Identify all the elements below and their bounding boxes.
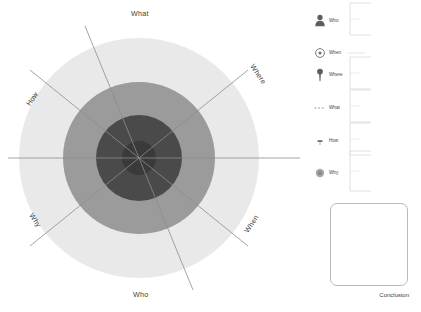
legend-item-where[interactable]: Where [300,62,421,88]
legend-bracket-who [347,2,373,40]
legend-label-when: When [329,51,341,56]
legend-label-why: Why [329,171,338,176]
legend-bracket-why [347,150,373,196]
bullseye-diagram: What Where When Who Why How [0,0,300,312]
small-mark-icon [314,134,326,148]
conclusion-block: Conclusion [330,203,410,308]
spoke-label-who: Who [133,291,148,298]
conclusion-box[interactable] [330,203,408,286]
legend-label-how: How [329,139,338,144]
legend-label-what: What [329,106,340,111]
legend-item-why[interactable]: Why [300,160,421,186]
bullseye-graphic [0,0,300,312]
legend-label-who: Who [329,19,338,24]
filled-circle-icon [314,166,326,180]
conclusion-label: Conclusion [379,292,409,298]
legend-label-where: Where [329,73,343,78]
person-icon [314,14,326,28]
legend-item-who[interactable]: Who [300,8,421,34]
spoke-label-what: What [131,10,149,17]
clock-icon [314,46,326,60]
legend-item-what[interactable]: What [300,95,421,121]
dashed-line-icon [314,101,326,115]
legend-panel: Who When Wher [300,0,421,190]
map-pin-icon [314,68,326,82]
